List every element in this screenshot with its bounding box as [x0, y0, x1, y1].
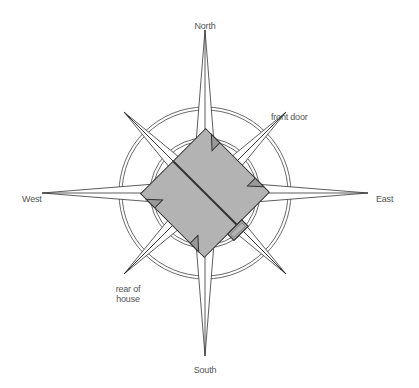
- label-rear-line1: rear of: [108, 284, 148, 294]
- label-front-door: front door: [271, 112, 308, 122]
- label-rear-of-house: rear of house: [108, 284, 148, 304]
- label-west: West: [22, 194, 42, 204]
- label-south: South: [190, 365, 220, 375]
- compass-rose-diagram: [0, 0, 419, 388]
- label-north: North: [190, 21, 220, 31]
- label-east: East: [376, 194, 393, 204]
- label-rear-line2: house: [108, 294, 148, 304]
